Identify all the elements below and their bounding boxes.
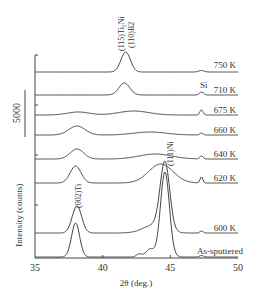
- trace-660-k: [35, 126, 238, 135]
- label-750k: 750 K: [214, 60, 237, 70]
- trace-620-k: [35, 164, 238, 183]
- label-as-sputtered: As-sputtered: [197, 246, 243, 256]
- trace-as-sputtered: [35, 172, 238, 257]
- xrd-chart: 5000 35 40 45 50 2θ (deg.) Intensity (co…: [0, 0, 255, 302]
- x-tick-50: 50: [233, 262, 243, 273]
- trace-640-k: [35, 149, 238, 159]
- traces: [35, 52, 238, 257]
- x-tick-40: 40: [98, 262, 108, 273]
- y-axis-label: Intensity (counts): [14, 183, 24, 246]
- x-axis-label: 2θ (deg.): [120, 278, 152, 288]
- annotation-b2: (110)B2: [127, 22, 136, 48]
- trace-600-k: [35, 161, 238, 233]
- label-660k: 660 K: [214, 125, 237, 135]
- label-710k: 710 K: [214, 85, 237, 95]
- label-600k: 600 K: [214, 223, 237, 233]
- annotation-si: Si: [200, 80, 208, 90]
- annotation-ti: (002)Ti: [74, 183, 83, 208]
- annotation-ti2ni: (115)Ti₂Ni: [117, 16, 126, 51]
- x-tick-45: 45: [165, 262, 175, 273]
- annotation-ni: (111)Ni: [166, 140, 175, 166]
- label-675k: 675 K: [214, 105, 237, 115]
- scale-bar-label: 5000: [11, 103, 22, 123]
- trace-750-k: [35, 52, 238, 72]
- x-tick-35: 35: [30, 262, 40, 273]
- label-640k: 640 K: [214, 149, 237, 159]
- trace-675-k: [35, 110, 238, 115]
- label-620k: 620 K: [214, 173, 237, 183]
- trace-710-k: [35, 83, 238, 95]
